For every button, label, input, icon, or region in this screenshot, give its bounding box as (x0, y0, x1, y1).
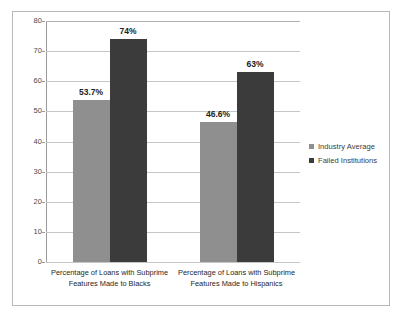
y-axis-tick-mark (42, 21, 45, 22)
y-axis-tick-mark (42, 51, 45, 52)
chart-legend: Industry AverageFailed Institutions (309, 143, 387, 170)
category-label-line: Percentage of Loans with Subprime (46, 268, 174, 279)
y-axis-tick-mark (42, 142, 45, 143)
y-axis-tick-label: 50 (16, 108, 42, 116)
legend-swatch-icon (309, 158, 314, 163)
category-label: Percentage of Loans with SubprimeFeature… (173, 268, 301, 289)
y-axis-tick-label: 10 (16, 228, 42, 236)
gridline (46, 262, 300, 263)
y-axis-tick-mark (42, 111, 45, 112)
y-axis-tick-label: 0 (16, 258, 42, 266)
bar-value-label: 63% (246, 60, 263, 69)
y-axis-ticks: 80706050403020100 (13, 21, 42, 262)
y-axis-tick-mark (42, 202, 45, 203)
y-axis-tick-label: 40 (16, 138, 42, 146)
category-label: Percentage of Loans with SubprimeFeature… (46, 268, 174, 289)
legend-label: Failed Institutions (318, 157, 377, 165)
y-axis-tick-mark (42, 81, 45, 82)
bar-value-label: 74% (119, 27, 136, 36)
legend-swatch-icon (309, 144, 314, 149)
y-axis-tick-label: 80 (16, 17, 42, 25)
bar-value-label: 46.6% (206, 110, 230, 119)
y-axis-tick-mark (42, 232, 45, 233)
bar-failed-institutions (237, 72, 274, 262)
y-axis-tick-label: 30 (16, 168, 42, 176)
bar-industry-average (73, 100, 110, 262)
chart-frame: 80706050403020100 53.7%74%46.6%63% Perce… (12, 11, 390, 306)
category-label-line: Features Made to Hispanics (173, 279, 301, 290)
bar-value-label: 53.7% (79, 88, 103, 97)
category-label-line: Percentage of Loans with Subprime (173, 268, 301, 279)
gridline (46, 51, 300, 52)
x-axis-category-labels: Percentage of Loans with SubprimeFeature… (46, 268, 300, 302)
bar-failed-institutions (110, 39, 147, 262)
legend-label: Industry Average (318, 143, 375, 151)
legend-item-failed-institutions[interactable]: Failed Institutions (309, 157, 387, 165)
plot-area: 53.7%74%46.6%63% (46, 21, 300, 262)
y-axis-tick-label: 70 (16, 47, 42, 55)
y-axis-tick-label: 20 (16, 198, 42, 206)
gridline (46, 21, 300, 22)
y-axis-tick-mark (42, 172, 45, 173)
bar-industry-average (200, 122, 237, 262)
legend-item-industry-average[interactable]: Industry Average (309, 143, 387, 151)
category-label-line: Features Made to Blacks (46, 279, 174, 290)
y-axis-tick-mark (42, 262, 45, 263)
y-axis-tick-label: 60 (16, 78, 42, 86)
